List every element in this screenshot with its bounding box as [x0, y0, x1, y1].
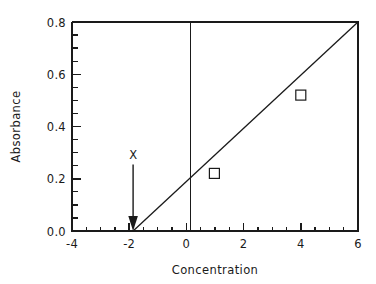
x-tick-label-0: 0 — [183, 237, 191, 251]
axis-frame — [72, 22, 358, 231]
axis-frame-path — [72, 22, 358, 231]
calibration-chart-figure: 0.0 0.2 0.4 0.6 0.8 -4 -2 0 2 4 6 X Conc… — [0, 0, 376, 284]
x-tick-label-6: 6 — [354, 237, 362, 251]
y-tick-label-0-8: 0.8 — [47, 16, 66, 30]
y-tick-label-0-0: 0.0 — [47, 225, 66, 239]
y-tick-label-0-4: 0.4 — [47, 120, 66, 134]
calibration-line — [133, 22, 358, 231]
y-axis-major-ticks — [72, 22, 81, 231]
x-tick-label-minus-2: -2 — [123, 237, 135, 251]
x-intercept-arrow — [128, 164, 138, 231]
data-point-marker — [209, 168, 219, 178]
y-axis-title: Absorbance — [9, 91, 23, 163]
x-tick-label-2: 2 — [240, 237, 248, 251]
x-axis-title: Concentration — [172, 263, 259, 277]
y-tick-label-0-2: 0.2 — [47, 172, 66, 186]
x-tick-label-minus-4: -4 — [66, 237, 78, 251]
data-point-marker — [296, 90, 306, 100]
plot-canvas: 0.0 0.2 0.4 0.6 0.8 -4 -2 0 2 4 6 X Conc… — [0, 0, 376, 284]
x-tick-label-4: 4 — [297, 237, 305, 251]
y-tick-label-0-6: 0.6 — [47, 68, 66, 82]
x-intercept-label: X — [129, 148, 137, 162]
